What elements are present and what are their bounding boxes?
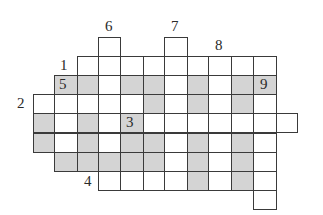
answer-cell-E7[interactable] bbox=[120, 171, 144, 191]
answer-cell-K8[interactable] bbox=[253, 190, 277, 210]
shaded-cell-J5 bbox=[231, 133, 254, 153]
answer-cell-I1[interactable] bbox=[208, 56, 232, 76]
answer-cell-G7[interactable] bbox=[164, 171, 188, 191]
answer-cell-G5[interactable] bbox=[164, 133, 188, 153]
shaded-cell-F3 bbox=[143, 94, 165, 114]
answer-cell-B4[interactable] bbox=[54, 113, 78, 133]
answer-cell-J4[interactable] bbox=[231, 113, 254, 133]
shaded-cell-D6 bbox=[98, 152, 121, 172]
clue-number-9: 9 bbox=[260, 77, 268, 92]
answer-cell-G1[interactable] bbox=[164, 56, 188, 76]
answer-cell-I7[interactable] bbox=[208, 171, 232, 191]
answer-cell-D0[interactable] bbox=[98, 37, 121, 57]
shaded-cell-H3 bbox=[187, 94, 209, 114]
clue-number-2: 2 bbox=[17, 96, 25, 111]
shaded-cell-C6 bbox=[77, 152, 99, 172]
answer-cell-F4[interactable] bbox=[143, 113, 165, 133]
clue-number-5: 5 bbox=[59, 77, 67, 92]
shaded-cell-H7 bbox=[187, 171, 209, 191]
answer-cell-C1[interactable] bbox=[77, 56, 99, 76]
answer-cell-H1[interactable] bbox=[187, 56, 209, 76]
shaded-cell-E6 bbox=[120, 152, 144, 172]
shaded-cell-C2 bbox=[77, 75, 99, 95]
shaded-cell-F5 bbox=[143, 133, 165, 153]
shaded-cell-C4 bbox=[77, 113, 99, 133]
answer-cell-A3[interactable] bbox=[33, 94, 55, 114]
answer-cell-K7[interactable] bbox=[253, 171, 277, 191]
answer-cell-F7[interactable] bbox=[143, 171, 165, 191]
answer-cell-G6[interactable] bbox=[164, 152, 188, 172]
answer-cell-D7[interactable] bbox=[98, 171, 121, 191]
shaded-cell-H6 bbox=[187, 152, 209, 172]
answer-cell-K5[interactable] bbox=[253, 133, 277, 153]
answer-cell-G4[interactable] bbox=[164, 113, 188, 133]
answer-cell-K3[interactable] bbox=[253, 94, 277, 114]
answer-cell-K1[interactable] bbox=[253, 56, 277, 76]
answer-cell-J1[interactable] bbox=[231, 56, 254, 76]
answer-cell-D4[interactable] bbox=[98, 113, 121, 133]
answer-cell-K4[interactable] bbox=[253, 113, 277, 133]
clue-number-1: 1 bbox=[60, 58, 68, 73]
answer-cell-C3[interactable] bbox=[77, 94, 99, 114]
shaded-cell-J3 bbox=[231, 94, 254, 114]
shaded-cell-C5 bbox=[77, 133, 99, 153]
answer-cell-H4[interactable] bbox=[187, 113, 209, 133]
clue-number-8: 8 bbox=[215, 38, 223, 53]
clue-number-7: 7 bbox=[171, 19, 179, 34]
answer-cell-G2[interactable] bbox=[164, 75, 188, 95]
answer-cell-L4[interactable] bbox=[276, 113, 298, 133]
shaded-cell-H5 bbox=[187, 133, 209, 153]
shaded-cell-E2 bbox=[120, 75, 144, 95]
shaded-cell-H2 bbox=[187, 75, 209, 95]
answer-cell-B5[interactable] bbox=[54, 133, 78, 153]
shaded-cell-A4 bbox=[33, 113, 55, 133]
answer-cell-D2[interactable] bbox=[98, 75, 121, 95]
answer-cell-G3[interactable] bbox=[164, 94, 188, 114]
answer-cell-G0[interactable] bbox=[164, 37, 188, 57]
answer-cell-D3[interactable] bbox=[98, 94, 121, 114]
answer-cell-E1[interactable] bbox=[120, 56, 144, 76]
answer-cell-F1[interactable] bbox=[143, 56, 165, 76]
answer-cell-I2[interactable] bbox=[208, 75, 232, 95]
answer-cell-I6[interactable] bbox=[208, 152, 232, 172]
answer-cell-I5[interactable] bbox=[208, 133, 232, 153]
answer-cell-D5[interactable] bbox=[98, 133, 121, 153]
clue-number-6: 6 bbox=[105, 19, 113, 34]
clue-number-3: 3 bbox=[126, 115, 134, 130]
shaded-cell-F2 bbox=[143, 75, 165, 95]
shaded-cell-J6 bbox=[231, 152, 254, 172]
shaded-cell-F6 bbox=[143, 152, 165, 172]
answer-cell-D1[interactable] bbox=[98, 56, 121, 76]
answer-cell-I3[interactable] bbox=[208, 94, 232, 114]
shaded-cell-J2 bbox=[231, 75, 254, 95]
clue-number-4: 4 bbox=[84, 174, 92, 189]
shaded-cell-E5 bbox=[120, 133, 144, 153]
crossword-grid: 123456789 bbox=[0, 0, 323, 215]
shaded-cell-B6 bbox=[54, 152, 78, 172]
answer-cell-I4[interactable] bbox=[208, 113, 232, 133]
answer-cell-E3[interactable] bbox=[120, 94, 144, 114]
answer-cell-K6[interactable] bbox=[253, 152, 277, 172]
shaded-cell-A5 bbox=[33, 133, 55, 153]
shaded-cell-J7 bbox=[231, 171, 254, 191]
answer-cell-B3[interactable] bbox=[54, 94, 78, 114]
